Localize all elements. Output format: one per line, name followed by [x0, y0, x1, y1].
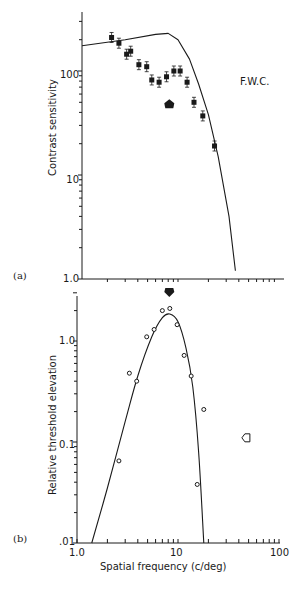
data-point-square	[109, 35, 114, 40]
a-fit-curve	[82, 33, 235, 270]
data-point-square	[164, 74, 169, 79]
data-point-circle	[117, 459, 121, 463]
b-ytick-1: 1.0	[59, 335, 75, 346]
xtick-10: 10	[170, 547, 183, 558]
b-fit-curve	[92, 314, 204, 543]
b-ytick-001: .01	[59, 536, 75, 547]
data-point-square	[144, 64, 149, 69]
data-point-square	[191, 100, 196, 105]
data-point-square	[128, 49, 133, 54]
data-point-circle	[168, 306, 172, 310]
adaptation-arrow-down-icon	[164, 288, 174, 297]
ylabel-contrast-sensitivity: Contrast sensitivity	[47, 79, 58, 176]
figure-canvas	[0, 0, 301, 589]
data-point-square	[185, 80, 190, 85]
data-point-circle	[160, 309, 164, 313]
data-point-square	[178, 69, 183, 74]
data-point-square	[116, 41, 121, 46]
data-point-circle	[135, 379, 139, 383]
xtick-1: 1.0	[69, 547, 85, 558]
adaptation-arrow-icon	[164, 99, 174, 108]
open-arrow-left-icon	[242, 434, 250, 442]
a-ytick-10: 10	[66, 174, 79, 185]
data-point-circle	[182, 353, 186, 357]
data-point-circle	[175, 323, 179, 327]
ylabel-threshold-elevation: Relative threshold elevation	[47, 355, 58, 495]
a-ytick-100: 100	[60, 69, 79, 80]
subject-initials: F.W.C.	[240, 76, 269, 87]
data-point-circle	[145, 335, 149, 339]
xtick-100: 100	[270, 547, 289, 558]
xlabel-spatial-frequency: Spatial frequency (c/deg)	[100, 561, 226, 572]
panel-label-b: (b)	[13, 533, 27, 544]
data-point-circle	[127, 371, 131, 375]
data-point-square	[136, 62, 141, 67]
a-ytick-1: 1.0	[63, 273, 79, 284]
data-point-square	[149, 77, 154, 82]
data-point-circle	[195, 482, 199, 486]
data-point-square	[157, 80, 162, 85]
data-point-circle	[189, 374, 193, 378]
data-point-square	[171, 69, 176, 74]
data-point-circle	[202, 407, 206, 411]
data-point-circle	[152, 327, 156, 331]
b-ytick-01: 0.1	[59, 439, 75, 450]
panel-label-a: (a)	[13, 270, 27, 281]
data-point-square	[212, 144, 217, 149]
data-point-square	[200, 113, 205, 118]
